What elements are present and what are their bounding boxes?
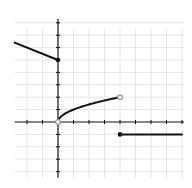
open-dot [56,120,61,125]
axes [15,19,184,178]
closed-dot [118,132,123,137]
function-curves [15,43,182,135]
open-dot [118,95,123,100]
closed-dot [56,58,61,63]
grid-lines [15,23,184,178]
piece-1-curve [15,43,58,60]
piecewise-function-graph [0,0,192,188]
